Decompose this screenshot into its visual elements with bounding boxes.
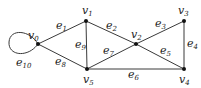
edge-label-e8: e8: [55, 55, 67, 69]
vertex-label-v4: v4: [179, 73, 190, 87]
vertex-label-v5: v5: [83, 73, 94, 87]
edge-label-e6: e6: [128, 68, 140, 82]
vertex-v5: [85, 67, 89, 71]
edge-label-e7: e7: [103, 44, 115, 58]
graph-diagram: v0 v1 v2 v3 v4 v5 e1 e2 e3 e4 e5 e6 e7 e…: [0, 0, 201, 88]
edge-label-e5: e5: [160, 44, 172, 58]
edge-label-e10: e10: [16, 56, 32, 70]
vertex-label-v0: v0: [28, 29, 39, 43]
vertex-v1: [84, 19, 88, 23]
edge-label-e3: e3: [155, 17, 167, 31]
vertex-label-v2: v2: [131, 28, 142, 42]
vertex-label-v3: v3: [178, 4, 189, 18]
vertex-label-v1: v1: [82, 4, 93, 18]
vertex-v3: [182, 19, 186, 23]
edge-labels: e1 e2 e3 e4 e5 e6 e7 e8 e9 e10: [16, 17, 198, 82]
edge-label-e1: e1: [56, 19, 67, 33]
edge-label-e2: e2: [106, 19, 118, 33]
vertex-v4: [182, 67, 186, 71]
edge-label-e4: e4: [187, 37, 198, 51]
edge-label-e9: e9: [75, 38, 87, 52]
edge-e9: [86, 21, 87, 69]
vertex-v2: [134, 42, 138, 46]
